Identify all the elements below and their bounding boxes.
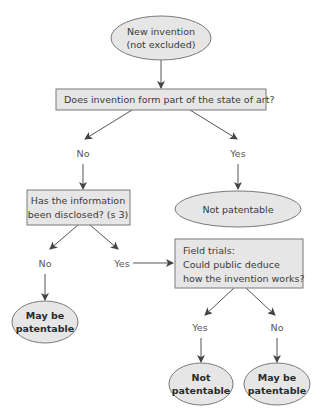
node-state-of-art-question: Does invention form part of the state of… <box>56 89 275 110</box>
node-label-line: how the invention works? <box>183 273 305 284</box>
node-label-line: Does invention form part of the state of… <box>64 94 275 105</box>
node-label-line: Not patentable <box>202 204 273 215</box>
node-label-line: (not excluded) <box>127 39 196 50</box>
node-label-line: May be <box>258 372 296 383</box>
node-label-line: patentable <box>248 385 306 396</box>
node-label-line: patentable <box>16 323 74 334</box>
edge-label-disclosed-no: No <box>39 258 52 269</box>
patentability-flowchart: No Yes No Yes Yes No New invention (not … <box>0 0 320 409</box>
node-new-invention: New invention (not excluded) <box>111 16 211 60</box>
edge-disclosed-yes <box>90 225 118 249</box>
edge-disclosed-no <box>50 225 78 249</box>
node-disclosed-question: Has the information been disclosed? (s 3… <box>27 190 130 225</box>
node-label-line: patentable <box>172 385 230 396</box>
node-label-line: Field trials: <box>183 245 235 256</box>
node-field-trials-question: Field trials: Could public deduce how th… <box>175 239 305 288</box>
node-label-line: Not <box>191 372 210 383</box>
node-label-line: May be <box>26 310 64 321</box>
node-not-patentable-1: Not patentable <box>175 191 301 227</box>
node-may-be-patentable-1: May be patentable <box>12 301 78 343</box>
node-label-line: Could public deduce <box>183 259 280 270</box>
edge-field-trials-no <box>246 288 275 315</box>
edge-state-of-art-yes <box>190 110 237 139</box>
node-not-patentable-2: Not patentable <box>169 363 233 405</box>
node-label-line: been disclosed? (s 3) <box>28 209 128 220</box>
edge-label-state-of-art-no: No <box>77 148 90 159</box>
edge-state-of-art-no <box>85 110 132 139</box>
edge-label-field-trials-yes: Yes <box>191 322 207 333</box>
node-label-line: New invention <box>127 26 195 37</box>
edge-label-disclosed-yes: Yes <box>113 258 129 269</box>
node-may-be-patentable-2: May be patentable <box>244 363 310 405</box>
node-label-line: Has the information <box>31 195 125 206</box>
edge-label-field-trials-no: No <box>271 322 284 333</box>
edge-field-trials-yes <box>205 288 234 315</box>
edge-label-state-of-art-yes: Yes <box>229 148 245 159</box>
